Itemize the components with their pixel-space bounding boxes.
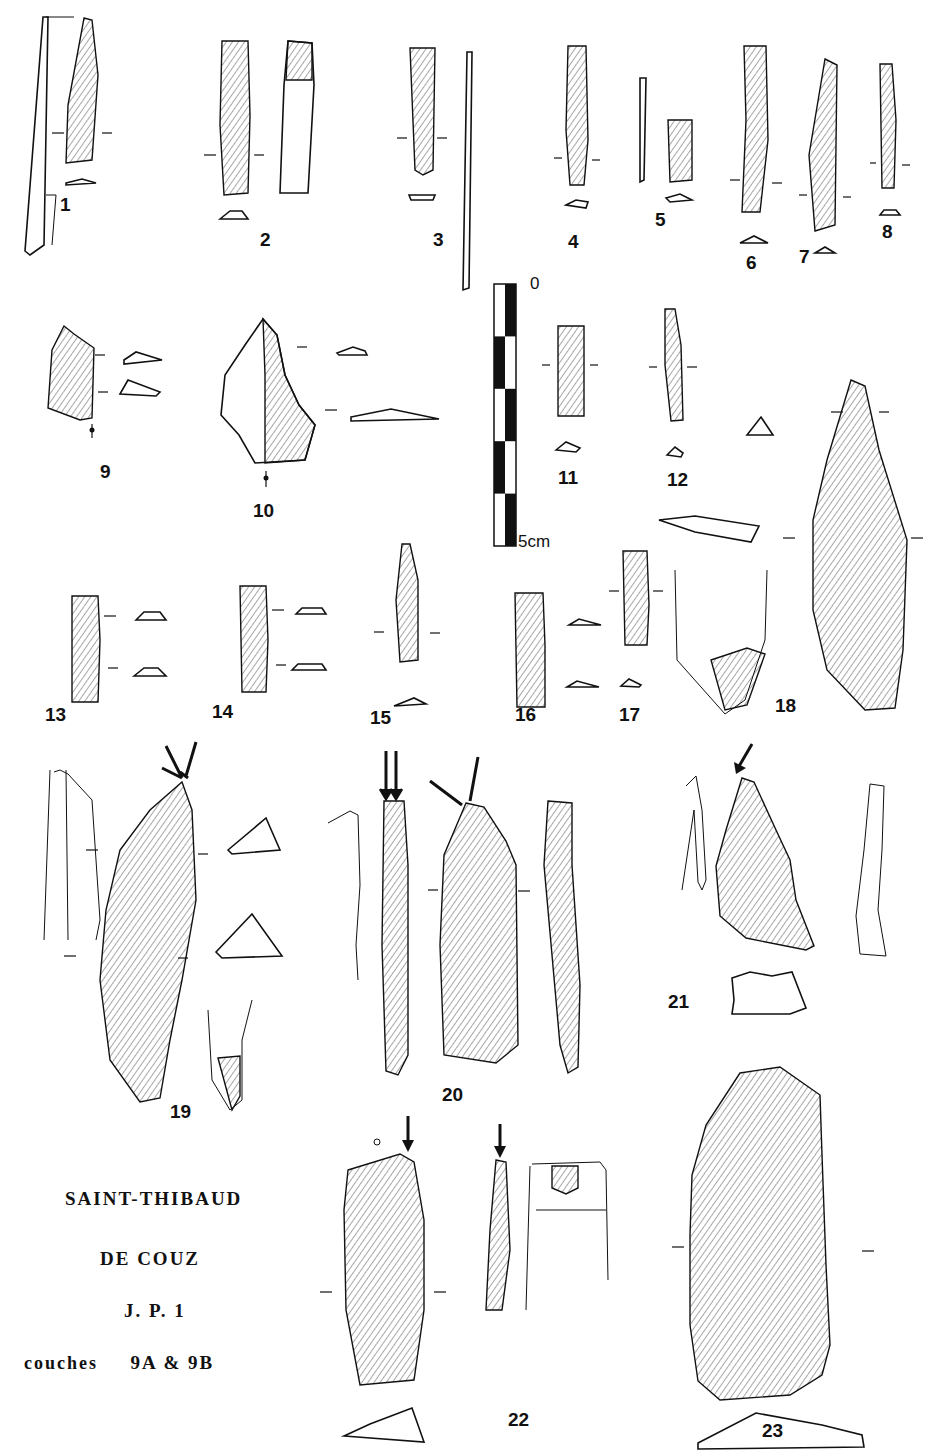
figure-label-18: 18 (775, 696, 796, 715)
figure-label-4: 4 (568, 232, 579, 251)
scale-bar-graphic (490, 280, 530, 550)
scale-start-label: 0 (530, 274, 539, 294)
figure-label-16: 16 (515, 705, 536, 724)
scale-end-label: 5cm (518, 532, 550, 552)
figure-label-20: 20 (442, 1085, 463, 1104)
figure-label-17: 17 (619, 705, 640, 724)
figure-label-19: 19 (170, 1102, 191, 1121)
scale-segment (505, 284, 516, 336)
figure-label-7: 7 (799, 247, 810, 266)
artifact-plate: 1 2 3 4 5 (0, 0, 925, 1455)
figure-label-22: 22 (508, 1410, 529, 1429)
scale-segment (505, 389, 516, 441)
scale-segment (494, 441, 505, 493)
figure-label-21: 21 (668, 992, 689, 1011)
figure-label-5: 5 (655, 210, 666, 229)
figure-label-11: 11 (558, 468, 578, 487)
figure-label-9: 9 (100, 462, 111, 481)
figure-label-8: 8 (882, 222, 893, 241)
figure-label-15: 15 (370, 708, 391, 727)
caption-layers-value: 9A & 9B (131, 1352, 215, 1373)
scale-segment (494, 336, 505, 388)
figure-label-1: 1 (60, 195, 71, 214)
figure-label-3: 3 (433, 230, 444, 249)
figure-label-23: 23 (762, 1421, 783, 1440)
figure-label-6: 6 (746, 253, 757, 272)
caption-site-name-2: DE COUZ (100, 1248, 200, 1270)
caption-layers-prefix: couches (24, 1353, 98, 1373)
caption-layers: couches 9A & 9B (24, 1352, 214, 1374)
figure-label-14: 14 (212, 702, 233, 721)
scale-segment (505, 494, 516, 546)
figure-label-13: 13 (45, 705, 66, 724)
figure-label-2: 2 (260, 230, 271, 249)
caption-site-name: SAINT-THIBAUD (65, 1188, 242, 1210)
figure-label-10: 10 (253, 501, 274, 520)
caption-locus: J. P. 1 (124, 1300, 186, 1322)
